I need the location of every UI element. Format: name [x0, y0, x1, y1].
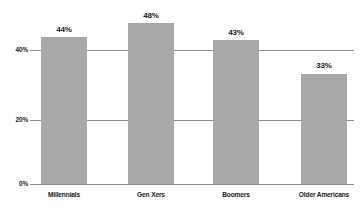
- bar-value-older-americans: 33%: [301, 61, 347, 70]
- bar-value-millennials: 44%: [41, 25, 87, 34]
- axis-baseline: [34, 184, 354, 185]
- y-axis-tick-20: 20%: [0, 116, 28, 124]
- y-tick-mark-20: [30, 120, 35, 121]
- category-label-gen-xers: Gen Xers: [105, 190, 197, 199]
- bar-value-gen-xers: 48%: [128, 11, 174, 20]
- category-label-boomers: Boomers: [190, 190, 282, 199]
- y-axis-label-20: 20%: [0, 116, 28, 124]
- y-tick-mark-0: [30, 184, 35, 185]
- plot-area: 40% 20% 0% 44% Millennials 48% Gen Xers …: [0, 0, 363, 213]
- bar-gen-xers: [128, 23, 174, 184]
- bar-millennials: [41, 37, 87, 184]
- y-axis-tick-40: 40%: [0, 46, 28, 54]
- category-label-older-americans: Older Americans: [278, 190, 363, 199]
- y-axis-tick-0: 0%: [0, 180, 28, 188]
- y-axis-label-40: 40%: [0, 46, 28, 54]
- bar-chart: 40% 20% 0% 44% Millennials 48% Gen Xers …: [0, 0, 363, 213]
- bar-boomers: [213, 40, 259, 184]
- category-label-millennials: Millennials: [18, 190, 110, 199]
- bar-value-boomers: 43%: [213, 28, 259, 37]
- bar-older-americans: [301, 74, 347, 185]
- y-tick-mark-40: [30, 50, 35, 51]
- y-axis-label-0: 0%: [0, 180, 28, 188]
